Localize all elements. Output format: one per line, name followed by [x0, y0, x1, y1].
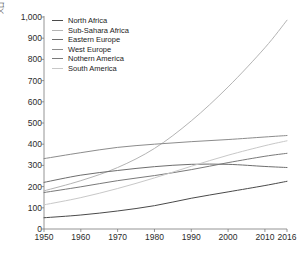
- x-axis-tick-label: 2000: [219, 232, 238, 242]
- legend-item[interactable]: Eastern Europe: [52, 35, 129, 45]
- legend-item-label: Sub-Sahara Africa: [68, 26, 129, 36]
- x-axis-tick-label: 1960: [71, 232, 90, 242]
- legend-item-label: Eastern Europe: [68, 35, 120, 45]
- x-axis-tick-label: 1990: [182, 232, 201, 242]
- legend-item-label: Nothern America: [68, 54, 124, 64]
- plot-area: [0, 0, 297, 254]
- legend-swatch-line-icon: [52, 49, 63, 50]
- series-line-south-america: [44, 141, 287, 205]
- legend-item[interactable]: Nothern America: [52, 54, 129, 64]
- legend-item[interactable]: South America: [52, 64, 129, 74]
- legend-item[interactable]: Sub-Sahara Africa: [52, 26, 129, 36]
- series-line-nothern-america: [44, 153, 287, 192]
- series-line-eastern-europe: [44, 164, 287, 182]
- legend-swatch-line-icon: [52, 20, 63, 21]
- series-line-west-europe: [44, 136, 287, 159]
- legend-item[interactable]: North Africa: [52, 16, 129, 26]
- legend-swatch-line-icon: [52, 30, 63, 31]
- legend-item-label: North Africa: [68, 16, 107, 26]
- legend-item-label: South America: [68, 64, 117, 74]
- x-axis-tick-label: 1950: [35, 232, 54, 242]
- x-axis-tick-label: 1980: [145, 232, 164, 242]
- x-axis-tick-label: 2016: [278, 232, 297, 242]
- x-axis-tick-label: 1970: [108, 232, 127, 242]
- line-chart: 人口 01002003004005006007008009001,000 Nor…: [0, 0, 297, 254]
- legend-swatch-line-icon: [52, 58, 63, 59]
- legend-swatch-line-icon: [52, 39, 63, 40]
- legend-item[interactable]: West Europe: [52, 45, 129, 55]
- chart-legend: North AfricaSub-Sahara AfricaEastern Eur…: [52, 16, 129, 73]
- legend-swatch-line-icon: [52, 68, 63, 69]
- legend-item-label: West Europe: [68, 45, 111, 55]
- x-axis-tick-label: 2010: [255, 232, 274, 242]
